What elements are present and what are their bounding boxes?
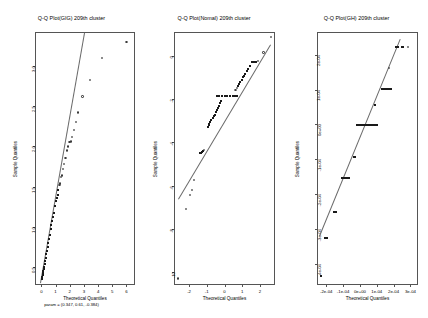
x-axis-tick-label: 1e-04 [371,289,382,294]
data-point [402,46,404,48]
data-point [212,117,214,119]
x-axis-tick-label: -1e-04 [337,289,349,294]
data-point [49,234,51,236]
data-point [262,51,264,53]
qq-plot-panel-gig: Q-Q Plot(GIG) 209th cluster Sample Quant… [0,0,143,318]
data-point [177,277,179,279]
data-point [220,100,222,102]
x-axis-tick-label: 0 [223,289,225,294]
data-point [207,126,209,128]
x-axis-tick-label: 5 [111,289,113,294]
y-axis-tick-label: 3.0 [31,66,36,72]
panel-subtitle: param = (0.347, 0.61, -0.384) [0,302,143,307]
x-axis-tick [126,285,127,287]
x-axis-tick [225,285,226,287]
data-point [390,88,392,90]
panel-title: Q-Q Plot(Nomal) 209th cluster [143,15,285,21]
data-point [335,211,337,213]
y-axis-tick-label: 0.5 [31,267,36,273]
data-point [47,242,49,244]
data-point [71,136,73,138]
y-axis-tick-label: -10 [170,272,175,278]
x-axis-tick [56,285,57,287]
x-axis-tick-label: 3e-04 [405,289,416,294]
data-point [239,81,241,83]
y-axis-tick-label: -6 [169,186,174,190]
data-point [61,174,63,176]
data-point [64,157,66,159]
data-point [70,140,72,142]
data-point [237,85,239,87]
data-point [44,260,46,262]
y-axis-tick-label: 2e-04 [316,55,321,66]
y-axis-tick-label: -8 [169,229,174,233]
data-point [125,41,127,43]
x-axis-tick-label: 2e-04 [388,289,399,294]
data-point [52,216,54,218]
y-axis-tick-label: -2e-04 [316,194,321,206]
x-axis-tick-label: 6 [125,289,127,294]
x-axis-tick-label: 1 [54,289,56,294]
data-point [213,115,215,117]
data-point [53,212,55,214]
data-point [54,205,56,207]
x-axis-tick-label: 2 [69,289,71,294]
x-axis-title: Theoretical Quantiles [174,296,275,301]
data-point [42,274,44,276]
data-point [397,46,399,48]
data-point [354,156,356,158]
x-axis-tick [70,285,71,287]
x-axis-tick-label: -2e-04 [320,289,332,294]
x-axis-tick-label: 0 [40,289,42,294]
x-axis-title: Theoretical Quantiles [35,296,135,301]
data-point [81,95,83,97]
plot-area [174,32,275,285]
x-axis-tick-label: 4 [97,289,99,294]
y-axis-title: Sample Quantiles [295,140,300,176]
x-axis-tick-label: 3 [83,289,85,294]
plot-area [317,32,418,285]
data-point [219,102,221,104]
plot-area [35,32,135,285]
y-axis-tick-label: -2 [169,99,174,103]
data-point [241,79,243,81]
x-axis-tick-label: 1 [241,289,243,294]
data-point [44,263,46,265]
x-axis-tick-label: 0e+00 [354,289,366,294]
y-axis-title: Sample Quantiles [153,140,158,176]
data-point [45,253,47,255]
x-axis-tick [112,285,113,287]
y-axis-tick-label: 1.5 [31,187,36,193]
data-point [47,246,49,248]
data-point [208,123,210,125]
data-point [243,75,245,77]
data-point [56,197,58,199]
data-point [101,57,103,59]
x-axis-tick [98,285,99,287]
data-point [247,68,249,70]
data-point [50,224,52,226]
data-point [50,228,52,230]
data-point [218,105,220,107]
qq-plot-panel-normal: Q-Q Plot(Nomal) 209th cluster Sample Qua… [143,0,285,318]
x-axis-tick [326,285,327,287]
data-point [348,177,350,179]
data-point [320,275,322,277]
data-point [62,168,64,170]
data-point [236,95,238,97]
qq-plot-figure: Q-Q Plot(GIG) 209th cluster Sample Quant… [0,0,428,318]
data-point [209,121,211,123]
data-point [57,189,59,191]
data-point [215,111,217,113]
qq-plot-panel-gh: Q-Q Plot(GH) 209th cluster Sample Quanti… [285,0,428,318]
x-axis-tick [377,285,378,287]
x-axis-tick [394,285,395,287]
data-point [46,250,48,252]
data-point [238,83,240,85]
data-point [244,73,246,75]
data-point [43,266,45,268]
x-axis-tick-label: -1 [205,289,209,294]
data-point [214,114,216,116]
data-point [55,200,57,202]
x-axis-tick-label: -2 [187,289,191,294]
